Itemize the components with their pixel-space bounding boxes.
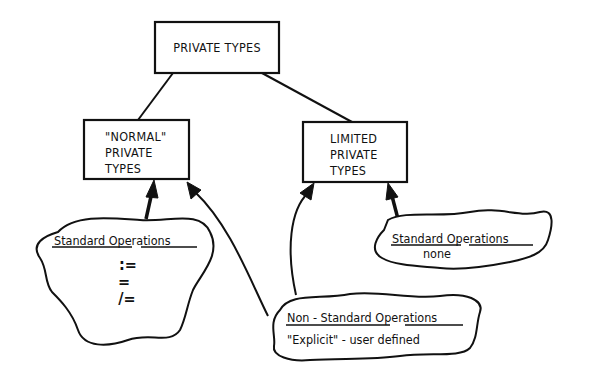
diagram-canvas: PRIVATE TYPES "NORMAL" PRIVATE TYPES LIM… (0, 0, 599, 384)
node-normal-line-1: "NORMAL" (105, 129, 166, 144)
node-private-types-label: PRIVATE TYPES (173, 40, 261, 55)
arrow-nonstandard-to-limited (291, 183, 314, 295)
cloud-standard-limited-heading: Standard Operations (392, 231, 509, 246)
cloud-standard-operations-normal: Standard Operations := = /= (37, 218, 214, 345)
node-normal-line-2: PRIVATE (105, 145, 153, 160)
node-normal-private-types: "NORMAL" PRIVATE TYPES (84, 120, 189, 179)
arrow-standard-to-normal (146, 180, 158, 219)
edge-root-limited (262, 73, 352, 122)
edge-root-normal (138, 73, 173, 120)
cloud-standard-normal-heading: Standard Operations (54, 233, 171, 248)
cloud-non-standard-body: "Explicit" - user defined (287, 332, 420, 347)
node-private-types: PRIVATE TYPES (155, 22, 279, 73)
node-limited-private-types: LIMITED PRIVATE TYPES (303, 122, 407, 182)
op-not-equal: /= (118, 289, 135, 308)
arrow-standard-to-limited (386, 183, 398, 219)
node-normal-line-3: TYPES (104, 161, 141, 176)
node-limited-line-3: TYPES (329, 163, 366, 178)
cloud-non-standard-heading: Non - Standard Operations (287, 310, 437, 325)
tree-connectors (138, 73, 352, 122)
cloud-standard-operations-limited: Standard Operations none (375, 210, 552, 268)
cloud-standard-limited-body: none (423, 246, 451, 261)
node-limited-line-2: PRIVATE (330, 147, 378, 162)
cloud-non-standard-operations: Non - Standard Operations "Explicit" - u… (273, 293, 480, 360)
node-limited-line-1: LIMITED (330, 131, 377, 146)
